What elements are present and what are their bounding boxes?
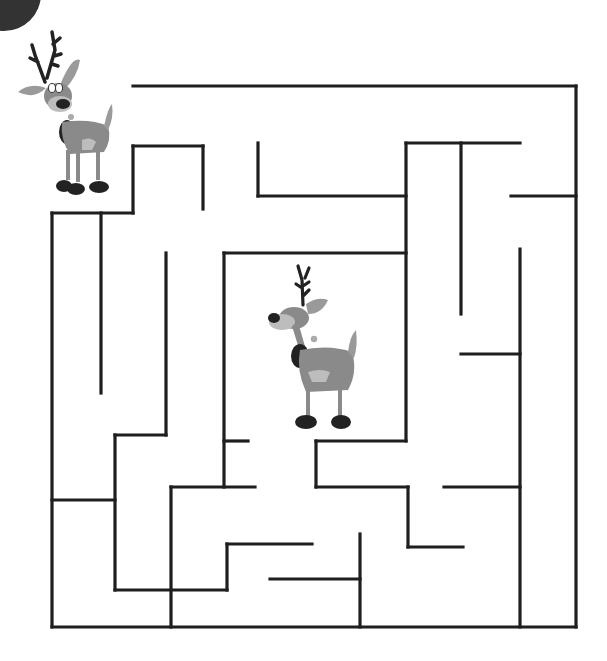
- reindeer-goal-icon[interactable]: [268, 266, 357, 429]
- corner-circle: [0, 0, 41, 31]
- maze-canvas: [0, 0, 607, 661]
- reindeer-start-icon[interactable]: [18, 32, 113, 195]
